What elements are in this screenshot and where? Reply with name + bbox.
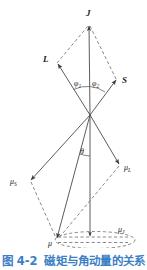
moment-vectors — [31, 115, 119, 238]
primary-vectors — [58, 26, 116, 115]
dashed-edge-muS-to-mu — [31, 182, 56, 238]
label-theta: θ — [80, 147, 84, 156]
phi1-subscript: 1 — [78, 83, 81, 89]
label-J: J — [85, 8, 91, 18]
label-phi1: φ1 — [74, 79, 81, 89]
figure-container: J L S φ1 φ2 θ μS μL μ μJ 图 4-2 磁矩与角动量的关系 — [0, 0, 147, 270]
caption-title: 磁矩与角动量的关系 — [44, 252, 145, 268]
parallelogram-dashed-edges — [57, 26, 117, 81]
label-mu-L: μL — [123, 163, 131, 173]
label-mu-S: μS — [9, 177, 17, 187]
vector-J — [89, 26, 90, 115]
mu-s-subscript: S — [14, 181, 17, 187]
label-L: L — [42, 54, 49, 64]
dashed-edge-J-to-S — [90, 26, 117, 81]
label-phi2: φ2 — [92, 79, 99, 89]
phi2-subscript: 2 — [96, 83, 99, 89]
vector-diagram: J L S φ1 φ2 θ μS μL μ μJ — [0, 0, 147, 248]
mu-l-subscript: L — [127, 167, 131, 173]
vector-mu-L — [90, 115, 119, 164]
label-mu: μ — [47, 239, 52, 248]
dashed-edge-muL-to-mu — [58, 166, 119, 239]
label-mu-J: μJ — [117, 225, 125, 235]
dashed-edge-L-to-J — [57, 26, 88, 63]
lower-dashed-edges — [31, 166, 119, 239]
mu-j-subscript: J — [122, 229, 125, 235]
caption-number: 图 4-2 — [2, 252, 38, 268]
label-S: S — [122, 75, 127, 85]
figure-caption: 图 4-2 磁矩与角动量的关系 — [0, 249, 147, 270]
